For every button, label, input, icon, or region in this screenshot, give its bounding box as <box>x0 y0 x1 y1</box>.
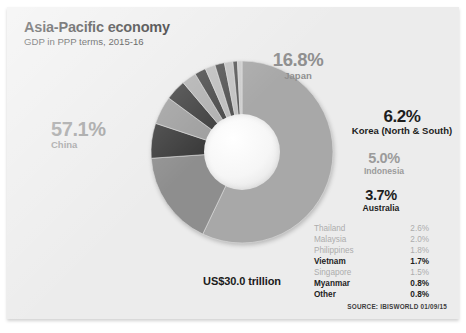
legend-row: Myanmar0.8% <box>314 278 429 289</box>
legend-row: Malaysia2.0% <box>314 234 429 245</box>
legend-row: Philippines1.8% <box>314 245 429 256</box>
legend-row: Thailand2.6% <box>314 223 429 234</box>
legend-row-value: 0.8% <box>410 278 429 289</box>
legend-row: Singapore1.5% <box>314 267 429 278</box>
legend-row-name: Other <box>314 289 336 300</box>
callout-indonesia-name: Indonesia <box>347 167 421 176</box>
callout-australia-name: Australia <box>344 204 418 213</box>
callout-japan-name: Japan <box>260 71 336 81</box>
legend-row-value: 2.6% <box>410 223 429 234</box>
legend-row-name: Vietnam <box>314 256 346 267</box>
legend-row-value: 1.8% <box>410 245 429 256</box>
callout-korea-name: Korea (North & South) <box>337 126 459 136</box>
chart-subtitle: GDP in PPP terms, 2015-16 <box>24 37 170 48</box>
legend-row-name: Thailand <box>314 223 345 234</box>
callout-japan: 16.8% Japan <box>260 51 336 81</box>
legend-row-value: 0.8% <box>410 289 429 300</box>
callout-indonesia: 5.0% Indonesia <box>347 151 421 176</box>
callout-korea: 6.2% Korea (North & South) <box>337 108 459 136</box>
legend-row-name: Philippines <box>314 245 354 256</box>
legend-row-value: 1.7% <box>410 256 429 267</box>
callout-china-name: China <box>51 140 106 150</box>
callout-australia-pct: 3.7% <box>344 188 418 203</box>
callout-indonesia-pct: 5.0% <box>347 151 421 166</box>
legend-row-value: 2.0% <box>410 234 429 245</box>
total-gdp-label: US$30.0 trillion <box>149 275 335 287</box>
legend-row: Vietnam1.7% <box>314 256 429 267</box>
legend-row-name: Myanmar <box>314 278 350 289</box>
source-note: SOURCE: IBISWORLD 01/09/15 <box>347 303 447 310</box>
donut-center-hole <box>204 114 280 190</box>
legend-row-name: Malaysia <box>314 234 346 245</box>
callout-australia: 3.7% Australia <box>344 188 418 213</box>
callout-korea-pct: 6.2% <box>337 108 459 125</box>
chart-header: Asia-Pacific economy GDP in PPP terms, 2… <box>24 20 170 47</box>
chart-card: Asia-Pacific economy GDP in PPP terms, 2… <box>7 7 459 319</box>
callout-japan-pct: 16.8% <box>260 51 336 70</box>
callout-china: 57.1% China <box>51 119 106 150</box>
callout-china-pct: 57.1% <box>51 119 106 139</box>
donut-chart <box>149 59 335 245</box>
legend-row: Other0.8% <box>314 289 429 300</box>
legend-row-name: Singapore <box>314 267 351 278</box>
minor-countries-legend: Thailand2.6%Malaysia2.0%Philippines1.8%V… <box>314 223 429 300</box>
legend-row-value: 1.5% <box>410 267 429 278</box>
chart-title: Asia-Pacific economy <box>24 20 170 36</box>
